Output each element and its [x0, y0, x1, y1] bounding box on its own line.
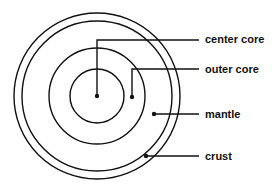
label-center-core: center core	[205, 33, 264, 45]
label-outer-core: outer core	[205, 63, 259, 75]
crust-dot	[144, 154, 148, 158]
mantle-dot	[152, 112, 156, 116]
label-crust: crust	[205, 150, 232, 162]
center-core-dot	[95, 94, 99, 98]
center-core-leader-line	[97, 40, 199, 96]
label-mantle: mantle	[205, 108, 240, 120]
outer-core-leader-line	[132, 69, 199, 97]
earth-layers-diagram: center core outer core mantle crust	[0, 0, 276, 189]
outer-core-dot	[130, 95, 134, 99]
